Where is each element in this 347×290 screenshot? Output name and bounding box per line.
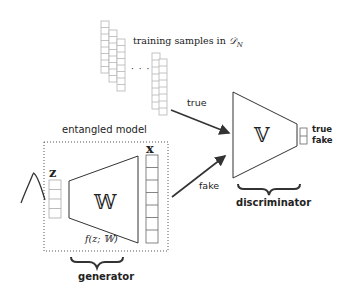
x-label: x xyxy=(146,141,154,156)
edge-label-true: true xyxy=(187,97,207,108)
discriminator-output xyxy=(300,128,307,144)
z-vector xyxy=(49,180,61,218)
output-fake-label: fake xyxy=(312,135,333,145)
sample-column-1 xyxy=(101,21,109,73)
edge-label-fake: fake xyxy=(199,180,219,191)
gaussian-curve-icon xyxy=(21,173,45,203)
generator-brace-icon xyxy=(71,257,123,268)
sample-column-2 xyxy=(109,30,117,82)
x-vector xyxy=(146,155,158,243)
sample-column-5 xyxy=(159,59,167,115)
discriminator-brace-icon xyxy=(238,184,300,195)
ellipsis: · · · xyxy=(131,64,150,74)
generator-function-label: f(z; 𝕎) xyxy=(85,233,118,244)
output-true-label: true xyxy=(312,124,332,134)
entangled-model-label: entangled model xyxy=(62,124,147,135)
arrow-true xyxy=(171,110,229,133)
discriminator-weights-symbol: 𝕍 xyxy=(254,123,270,147)
z-label: z xyxy=(49,165,56,180)
generator-label: generator xyxy=(78,271,134,282)
training-samples-label: training samples in 𝒟N xyxy=(133,35,243,49)
generator-weights-symbol: 𝕎 xyxy=(94,190,116,214)
sample-column-3 xyxy=(117,39,125,91)
discriminator-label: discriminator xyxy=(236,197,311,208)
